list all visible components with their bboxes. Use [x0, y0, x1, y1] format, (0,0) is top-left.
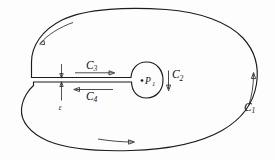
- figure-container: Contour integration diagram with slit an…: [0, 0, 275, 160]
- label-epsilon: ε: [59, 104, 62, 112]
- point-p1-subscript: 1: [152, 80, 155, 87]
- outer-top-left-direction-arrow: [40, 23, 73, 45]
- label-c4-subscript: 4: [94, 95, 98, 104]
- point-p1-label: P: [144, 75, 151, 86]
- outer-bottom-direction-arrow: [98, 139, 135, 144]
- contour-diagram: Contour integration diagram with slit an…: [0, 0, 275, 160]
- label-c1-subscript: 1: [252, 106, 256, 115]
- point-p1-dot: [141, 79, 144, 82]
- label-c2-subscript: 2: [180, 74, 184, 83]
- label-c3-subscript: 3: [93, 64, 98, 73]
- inner-c2-direction-arrow: [167, 71, 171, 91]
